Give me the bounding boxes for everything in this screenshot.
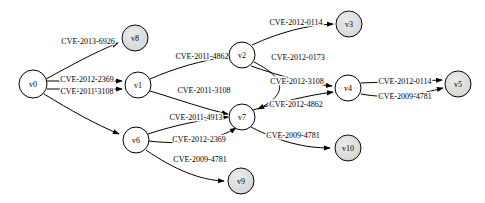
node-v9[interactable]: v9: [228, 168, 254, 194]
edge-label-v0-to-v8: CVE-2013-6926: [61, 37, 114, 46]
node-v10[interactable]: v10: [335, 135, 361, 161]
node-v3[interactable]: v3: [336, 11, 362, 37]
node-v2[interactable]: v2: [229, 42, 255, 68]
node-label-v4: v4: [344, 84, 352, 93]
edge-label-v2-to-v7: CVE-2012-0173: [271, 53, 324, 62]
node-v0[interactable]: v0: [19, 70, 47, 98]
edge-label-v6-to-v7: CVE-2011-4913: [169, 113, 222, 122]
node-v6[interactable]: v6: [123, 127, 149, 153]
node-label-v9: v9: [237, 177, 245, 186]
graph-canvas: CVE-2013-6926CVE-2013-6926CVE-2012-2369C…: [0, 0, 485, 203]
edge-v2-to-v3: [252, 24, 333, 45]
edge-label-v6-to-v9: CVE-2009-4781: [173, 155, 226, 164]
edge-label-v4-to-v5: CVE-2012-0114: [378, 77, 431, 86]
node-label-v3: v3: [345, 20, 353, 29]
edge-label-v2-to-v3: CVE-2012-0114: [269, 18, 322, 27]
edge-labels-layer: CVE-2013-6926CVE-2013-6926CVE-2012-2369C…: [60, 18, 431, 164]
node-v4[interactable]: v4: [335, 75, 361, 101]
edge-label-v4-to-v5: CVE-2009-4781: [378, 92, 431, 101]
edge-label-v1-to-v2: CVE-2011-4862: [175, 52, 228, 61]
edge-label-v0-to-v1: CVE-2011-3108: [60, 87, 113, 96]
edge-label-v7-to-v4: CVE-2012-4862: [269, 100, 322, 109]
node-label-v7: v7: [238, 113, 246, 122]
edge-label-v1-to-v7: CVE-2011-3108: [177, 86, 230, 95]
edge-label-v2-to-v4: CVE-2012-3108: [270, 77, 323, 86]
node-label-v2: v2: [238, 51, 246, 60]
node-label-v10: v10: [342, 144, 354, 153]
node-v5[interactable]: v5: [445, 71, 471, 97]
attack-graph: CVE-2013-6926CVE-2013-6926CVE-2012-2369C…: [0, 0, 485, 203]
edge-label-v0-to-v1: CVE-2012-2369: [60, 75, 113, 84]
node-label-v6: v6: [132, 136, 140, 145]
node-v7[interactable]: v7: [229, 104, 255, 130]
node-label-v1: v1: [134, 81, 142, 90]
edge-label-v7-to-v10: CVE-2009-4781: [266, 131, 319, 140]
node-label-v5: v5: [454, 80, 462, 89]
node-v8[interactable]: v8: [122, 25, 148, 51]
node-label-v0: v0: [29, 80, 37, 89]
node-v1[interactable]: v1: [125, 72, 151, 98]
edge-v0-to-v6: [44, 94, 119, 134]
node-label-v8: v8: [131, 34, 139, 43]
edge-label-v6-to-v7: CVE-2012-2369: [172, 135, 225, 144]
